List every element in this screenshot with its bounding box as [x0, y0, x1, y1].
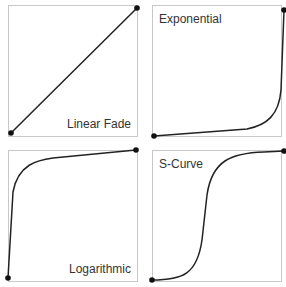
exponential-panel: Exponential	[152, 5, 282, 137]
start-point-handle[interactable]	[8, 130, 14, 136]
logarithmic-panel: Logarithmic	[8, 150, 138, 282]
end-point-handle[interactable]	[134, 5, 140, 11]
linear-fade-panel: Linear Fade	[8, 5, 138, 137]
panel-label: S-Curve	[159, 157, 203, 171]
panel-label: Linear Fade	[67, 117, 131, 131]
end-point-handle[interactable]	[133, 147, 139, 153]
panel-label: Exponential	[159, 12, 222, 26]
s-curve-panel: S-Curve	[152, 150, 282, 282]
panel-label: Logarithmic	[69, 262, 131, 276]
end-point-handle[interactable]	[281, 7, 286, 13]
start-point-handle[interactable]	[151, 133, 157, 139]
end-point-handle[interactable]	[281, 148, 286, 154]
start-point-handle[interactable]	[149, 277, 155, 283]
start-point-handle[interactable]	[5, 275, 11, 281]
